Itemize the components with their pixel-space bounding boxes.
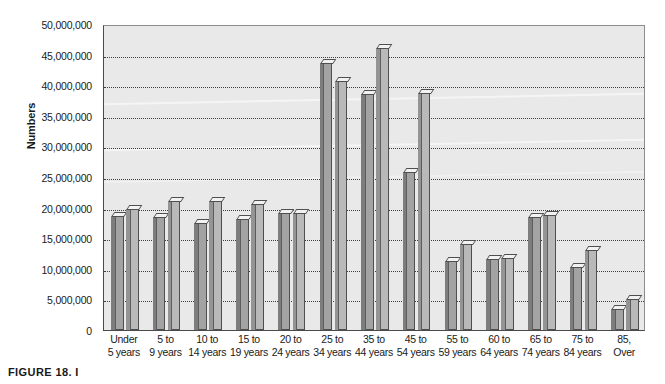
bar [251,200,264,330]
x-tick-line-2: Over [597,346,651,359]
bar-top-cap [194,219,210,224]
y-axis-tick-label: 10,000,000 [41,265,92,275]
x-axis-tick-label: 85,Over [597,333,651,358]
bar-side-face [236,219,241,330]
bar-top-cap [236,215,252,220]
bar-group [111,26,139,330]
bar [194,219,207,330]
bar-top-cap [486,255,502,260]
bar [111,212,124,330]
bar-top-cap [153,213,169,218]
x-tick-line-1: 5 to [157,333,173,345]
bar-top-cap [361,90,377,95]
bar-top-cap [209,197,225,202]
x-tick-line-1: 10 to [196,333,218,345]
bar [501,254,514,330]
bar-top-cap [611,305,627,310]
bar [293,209,306,330]
bar-side-face [251,204,256,330]
bar-side-face [293,213,298,330]
bar-top-cap [168,197,184,202]
bar [570,263,583,330]
y-axis-tick-label: 5,000,000 [47,295,92,305]
bar-side-face [570,267,575,330]
bar [528,213,541,330]
bar-side-face [320,63,325,330]
bar-side-face [528,217,533,330]
bar-top-cap [293,209,309,214]
y-axis-tick-label: 0 [86,326,92,336]
bar-side-face [501,258,506,330]
x-tick-line-1: 35 to [363,333,385,345]
x-tick-line-1: 55 to [446,333,468,345]
bar-side-face [403,172,408,330]
bar-top-cap [403,168,419,173]
bar [126,205,139,330]
bar [168,197,181,330]
bar-group [486,26,514,330]
bar-top-cap [585,246,601,251]
bar [418,89,431,330]
y-axis-tick-labels: 50,000,00045,000,00040,000,00035,000,000… [0,0,98,384]
bar-side-face [460,244,465,330]
bar [611,305,624,330]
bar-side-face [194,223,199,330]
bar [335,77,348,330]
y-axis-tick-label: 20,000,000 [41,204,92,214]
bar-top-cap [528,213,544,218]
bar [460,240,473,330]
bar-top-cap [501,254,517,259]
bar-side-face [376,48,381,330]
bar-group [278,26,306,330]
bar-side-face [611,309,616,330]
bar-side-face [445,261,450,330]
plot-area [103,25,645,331]
y-axis-tick-label: 40,000,000 [41,81,92,91]
y-axis-tick-label: 25,000,000 [41,173,92,183]
bar [361,90,374,330]
bar-group [153,26,181,330]
bar-group [528,26,556,330]
bar [543,211,556,330]
bar-side-face [111,216,116,330]
x-tick-line-1: 20 to [280,333,302,345]
x-tick-line-1: 15 to [238,333,260,345]
x-tick-line-1: 60 to [488,333,510,345]
bar-side-face [209,201,214,330]
bar-side-face [126,209,131,330]
bar-group [361,26,389,330]
bar-side-face [486,259,491,330]
x-tick-line-1: 45 to [405,333,427,345]
x-tick-line-1: 25 to [321,333,343,345]
y-axis-tick-label: 50,000,000 [41,20,92,30]
bar [236,215,249,330]
bar-group [445,26,473,330]
plot-inner [104,26,644,330]
bar-group [320,26,348,330]
bar-top-cap [111,212,127,217]
bar [626,295,639,330]
bar-side-face [153,217,158,330]
bar-side-face [585,250,590,330]
x-tick-line-1: 85, [617,333,631,345]
y-axis-tick-label: 35,000,000 [41,112,92,122]
bar-group [611,26,639,330]
bar-group [570,26,598,330]
bar-top-cap [278,209,294,214]
x-axis-tick-labels: Under5 years5 to9 years10 to14 years15 t… [103,333,645,373]
bar-group [236,26,264,330]
bar [278,209,291,330]
bar [486,255,499,330]
bar-side-face [361,94,366,330]
y-axis-tick-label: 15,000,000 [41,234,92,244]
bar-top-cap [320,59,336,64]
bar [320,59,333,330]
bar-top-cap [460,240,476,245]
bar-group [194,26,222,330]
bar-top-cap [376,44,392,49]
y-axis-tick-label: 30,000,000 [41,142,92,152]
bar [585,246,598,330]
bar [403,168,416,330]
x-tick-line-1: Under [110,333,137,345]
figure-caption: FIGURE 18. I [8,366,79,378]
